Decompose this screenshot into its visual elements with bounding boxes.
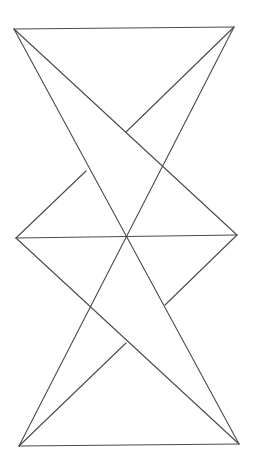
short-bl-lower-line xyxy=(19,343,126,446)
diagonal-tr-to-bl-line xyxy=(19,27,234,446)
line-segments xyxy=(14,27,239,446)
geometric-line-figure xyxy=(0,0,255,470)
short-mr-lower-line xyxy=(165,235,237,305)
short-tr-upper-line xyxy=(126,27,234,132)
diagonal-ml-to-br-line xyxy=(16,238,239,444)
bottom-edge-line xyxy=(19,444,239,446)
top-edge-line xyxy=(14,27,234,29)
short-ml-upper-line xyxy=(16,171,86,238)
